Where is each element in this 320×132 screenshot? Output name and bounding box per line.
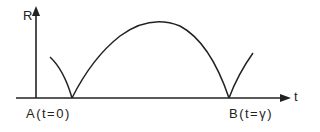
y-axis-label: R [23, 8, 34, 23]
x-axis-arrow-icon [280, 94, 291, 102]
curve-left-branch [50, 57, 72, 98]
point-b-label: B(t=γ) [229, 106, 273, 121]
curve-right-branch [229, 53, 253, 98]
x-axis-label: t [294, 89, 299, 104]
point-a-label: A(t=0) [26, 106, 71, 121]
curve-main-arc [72, 22, 229, 98]
